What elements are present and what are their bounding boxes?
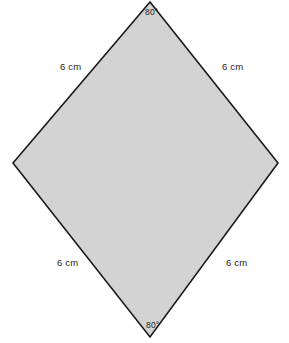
side-label-bottom-right: 6 cm <box>226 258 247 268</box>
side-label-bottom-left: 6 cm <box>57 258 78 268</box>
angle-label-bottom: 80° <box>146 321 159 330</box>
rhombus-polygon <box>13 2 278 337</box>
angle-label-top: 80° <box>145 8 158 17</box>
side-label-top-left: 6 cm <box>60 62 81 72</box>
geometry-figure: 6 cm 6 cm 6 cm 6 cm 80° 80° <box>0 0 289 343</box>
rhombus-shape <box>0 0 289 343</box>
side-label-top-right: 6 cm <box>222 62 243 72</box>
